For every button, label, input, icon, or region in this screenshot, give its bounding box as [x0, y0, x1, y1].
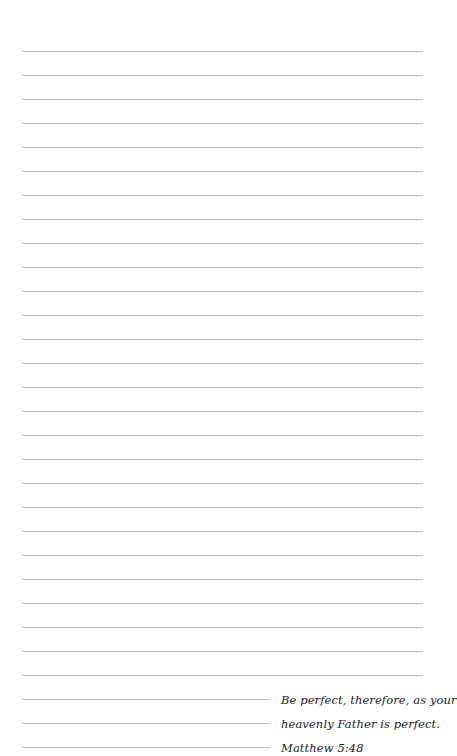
- ruled-line: [22, 147, 423, 148]
- ruled-line: [22, 699, 270, 700]
- ruled-line: [22, 51, 423, 52]
- ruled-line: [22, 675, 423, 676]
- quote-line-2: heavenly Father is perfect.: [281, 712, 441, 736]
- ruled-line: [22, 99, 423, 100]
- ruled-line: [22, 435, 423, 436]
- ruled-line: [22, 507, 423, 508]
- ruled-line: [22, 651, 423, 652]
- ruled-line: [22, 219, 423, 220]
- ruled-line: [22, 483, 423, 484]
- ruled-line: [22, 243, 423, 244]
- ruled-line: [22, 291, 423, 292]
- ruled-line: [22, 363, 423, 364]
- scripture-quote: Be perfect, therefore, as your heavenly …: [281, 688, 441, 756]
- ruled-line: [22, 267, 423, 268]
- ruled-line: [22, 747, 270, 748]
- ruled-line: [22, 171, 423, 172]
- quote-line-1: Be perfect, therefore, as your: [281, 688, 441, 712]
- quote-citation: Matthew 5:48: [281, 736, 441, 756]
- ruled-line: [22, 579, 423, 580]
- ruled-line: [22, 531, 423, 532]
- ruled-line: [22, 315, 423, 316]
- ruled-line: [22, 75, 423, 76]
- ruled-line: [22, 387, 423, 388]
- ruled-line: [22, 555, 423, 556]
- ruled-line: [22, 123, 423, 124]
- ruled-line: [22, 411, 423, 412]
- ruled-line: [22, 195, 423, 196]
- ruled-line: [22, 603, 423, 604]
- ruled-line: [22, 339, 423, 340]
- ruled-line: [22, 627, 423, 628]
- ruled-line: [22, 459, 423, 460]
- ruled-line: [22, 723, 270, 724]
